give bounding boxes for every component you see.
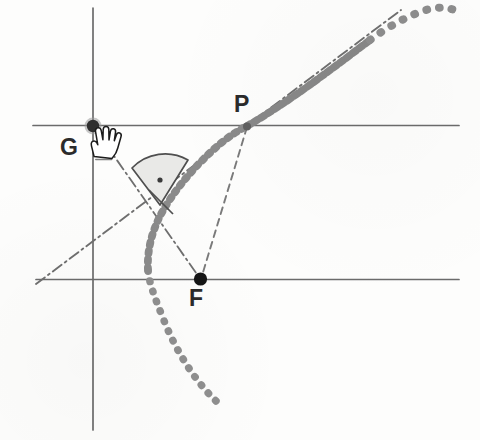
point-marker-P[interactable] [243,123,251,131]
hand-cursor-icon [91,127,121,160]
point-marker-F[interactable] [194,272,207,285]
parabola-curve [148,8,459,401]
point-label-P: P [234,93,249,116]
geometry-figure: G P F [0,0,480,440]
point-label-G: G [60,136,78,159]
figure-canvas [0,0,480,440]
sector-center-dot [157,177,162,182]
point-label-F: F [189,287,203,310]
